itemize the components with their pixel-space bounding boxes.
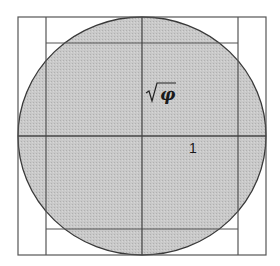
unit-label: 1 — [189, 140, 197, 156]
phi-symbol: φ — [160, 84, 176, 104]
diagram-canvas: φ 1 — [0, 0, 280, 266]
